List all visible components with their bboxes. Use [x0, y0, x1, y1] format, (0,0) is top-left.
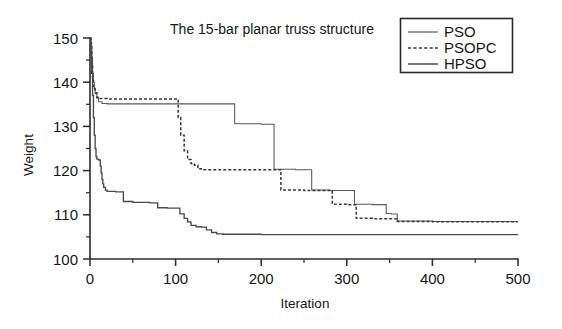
y-tick-label-130: 130 — [53, 118, 78, 135]
y-tick-label-140: 140 — [53, 74, 78, 91]
x-tick-label-400: 400 — [420, 270, 445, 287]
x-tick-label-300: 300 — [334, 270, 359, 287]
y-tick-label-150: 150 — [53, 30, 78, 47]
x-tick-label-0: 0 — [86, 270, 94, 287]
legend-label-psopc: PSOPC — [444, 39, 497, 56]
y-axis-label: Weight — [21, 134, 36, 176]
legend: PSO PSOPC HPSO — [401, 19, 513, 73]
y-tick-label-100: 100 — [53, 251, 78, 268]
x-tick-label-100: 100 — [163, 270, 188, 287]
x-tick-label-500: 500 — [505, 270, 530, 287]
convergence-line-chart: 1001101201301401500100200300400500 The 1… — [0, 0, 562, 329]
x-axis-label: Iteration — [281, 296, 330, 311]
x-tick-label-200: 200 — [249, 270, 274, 287]
legend-label-pso: PSO — [444, 23, 476, 40]
chart-figure: 1001101201301401500100200300400500 The 1… — [0, 0, 562, 329]
y-tick-label-120: 120 — [53, 162, 78, 179]
y-tick-label-110: 110 — [54, 206, 78, 223]
legend-label-hpso: HPSO — [444, 55, 487, 72]
chart-title: The 15-bar planar truss structure — [170, 21, 374, 37]
